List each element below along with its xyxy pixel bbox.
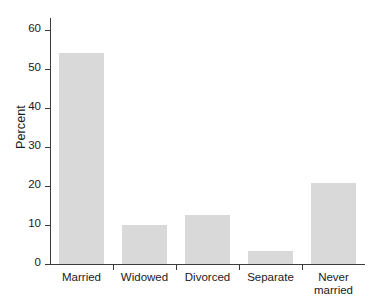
x-tick-label: Separate (239, 271, 302, 284)
x-tick-mark (302, 265, 303, 270)
x-tick-label: Never married (302, 271, 365, 297)
bar (248, 251, 293, 264)
bar (311, 183, 356, 264)
x-tick-mark (113, 265, 114, 270)
y-tick-mark (45, 264, 50, 265)
x-axis-line (50, 264, 365, 265)
y-tick: 0 (0, 264, 50, 265)
x-tick-label: Married (50, 271, 113, 284)
x-tick-mark (176, 265, 177, 270)
bars-layer (0, 0, 372, 264)
bar (59, 53, 104, 264)
x-tick-label: Widowed (113, 271, 176, 284)
bar (185, 215, 230, 264)
x-tick-label: Divorced (176, 271, 239, 284)
bar-chart: Percent 0102030405060 MarriedWidowedDivo… (0, 0, 372, 307)
bar (122, 225, 167, 264)
x-tick-mark (239, 265, 240, 270)
